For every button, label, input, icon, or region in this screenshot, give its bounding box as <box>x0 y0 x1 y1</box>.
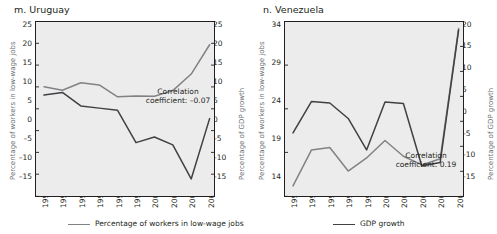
ytick-left-3: 19 <box>259 134 281 143</box>
plot-area-uruguay <box>35 21 215 197</box>
ytick-left-0: 34 <box>259 20 281 29</box>
ytick-right-1: 15 <box>462 41 484 50</box>
ytick-left-4: 5 <box>10 96 32 105</box>
ytick-right-4: 5 <box>213 96 235 105</box>
ytick-left-0: 25 <box>10 20 32 29</box>
legend-label-low-wage: Percentage of workers in low-wage jobs <box>95 219 244 228</box>
ytick-left-5: 0 <box>10 115 32 124</box>
ytick-left-4: 14 <box>259 172 281 181</box>
panel-venezuela: n. Venezuela Percentage of workers in lo… <box>249 0 497 212</box>
ytick-left-7: –10 <box>10 153 32 162</box>
ytick-left-3: 10 <box>10 77 32 86</box>
plot-frame-uruguay <box>36 22 215 197</box>
panel-title-uruguay: m. Uruguay <box>14 4 70 15</box>
ytick-right-0: 20 <box>462 20 484 29</box>
ytick-right-3: 5 <box>462 85 484 94</box>
ytick-right-7: –15 <box>462 172 484 181</box>
ytick-right-5: 0 <box>213 115 235 124</box>
figure-two-panel-line-charts: m. Uruguay Percentage of workers in low-… <box>0 0 497 234</box>
panel-uruguay: m. Uruguay Percentage of workers in low-… <box>0 0 248 212</box>
legend-swatch-low-wage <box>68 224 90 225</box>
correlation-annotation-uruguay: Correlation coefficient: –0.07 <box>141 88 215 106</box>
panel-title-venezuela: n. Venezuela <box>263 4 324 15</box>
right-axis-title-uruguay: Percentage of GDP growth <box>238 88 246 180</box>
ytick-right-2: 15 <box>213 58 235 67</box>
ytick-left-1: 20 <box>10 39 32 48</box>
ytick-left-2: 15 <box>10 58 32 67</box>
correlation-annotation-venezuela: Correlation coefficient: 0.19 <box>384 152 468 170</box>
correlation-line1: Correlation <box>405 151 446 160</box>
correlation-line2: coefficient: 0.19 <box>396 160 457 169</box>
plot-frame-venezuela <box>285 22 464 197</box>
legend-label-gdp: GDP growth <box>360 219 405 228</box>
legend: Percentage of workers in low-wage jobs G… <box>0 214 497 234</box>
ytick-left-6: –5 <box>10 134 32 143</box>
correlation-line2: coefficient: –0.07 <box>146 96 210 105</box>
ytick-right-6: –5 <box>213 134 235 143</box>
plot-area-venezuela <box>284 21 464 197</box>
ytick-left-1: 29 <box>259 58 281 67</box>
ytick-right-7: –10 <box>213 153 235 162</box>
ytick-right-2: 10 <box>462 63 484 72</box>
right-axis-title-venezuela: Percentage of GDP growth <box>487 88 495 180</box>
ytick-left-2: 24 <box>259 96 281 105</box>
ytick-right-4: 0 <box>462 107 484 116</box>
ytick-left-8: –15 <box>10 172 32 181</box>
ytick-right-0: 25 <box>213 20 235 29</box>
ytick-right-8: –15 <box>213 172 235 181</box>
ytick-right-3: 10 <box>213 77 235 86</box>
legend-swatch-gdp <box>333 224 355 225</box>
correlation-line1: Correlation <box>157 87 198 96</box>
ytick-right-1: 20 <box>213 39 235 48</box>
ytick-right-5: –5 <box>462 129 484 138</box>
